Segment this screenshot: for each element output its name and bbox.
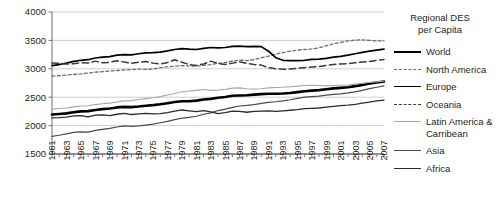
x-tick-label-1985: 1985	[221, 140, 231, 160]
legend-swatch-europe	[394, 81, 421, 92]
series-line-asia	[52, 86, 384, 137]
legend-label-asia: Asia	[426, 145, 444, 157]
legend-item-europe[interactable]: Europe	[394, 81, 503, 93]
series-line-world	[52, 82, 384, 115]
x-tick-label-1995: 1995	[293, 140, 303, 160]
x-tick-label-1969: 1969	[105, 140, 115, 160]
x-tick-label-1977: 1977	[163, 140, 173, 160]
legend-label-oceania: Oceania	[426, 99, 461, 111]
x-tick-label-1997: 1997	[307, 140, 317, 160]
legend-label-world: World	[426, 46, 451, 58]
x-tick-label-1983: 1983	[206, 140, 216, 160]
x-tick-label-1989: 1989	[249, 140, 259, 160]
legend-item-world[interactable]: World	[394, 46, 503, 58]
legend-item-asia[interactable]: Asia	[394, 145, 503, 157]
legend-label-africa: Africa	[426, 163, 450, 175]
x-tick-label-1987: 1987	[235, 140, 245, 160]
x-tick-label-1971: 1971	[120, 140, 130, 160]
legend-item-africa[interactable]: Africa	[394, 163, 503, 175]
legend-swatch-world	[394, 46, 421, 57]
legend-swatch-oceania	[394, 99, 421, 110]
line-chart-svg: 1500200025003000350040001961196319651967…	[0, 0, 390, 218]
y-tick-label-1500: 1500	[25, 148, 46, 159]
legend-swatch-north_america	[394, 64, 421, 75]
x-tick-label-1991: 1991	[264, 140, 274, 160]
y-tick-label-4000: 4000	[25, 6, 46, 17]
legend-label-north_america: North America	[426, 64, 486, 76]
chart-legend: Regional DES per Capita WorldNorth Ameri…	[394, 8, 503, 208]
series-line-latin-america-carribean	[52, 81, 384, 109]
legend-label-latin_america: Latin America &Carribean	[426, 116, 493, 139]
x-tick-label-2003: 2003	[351, 140, 361, 160]
legend-swatch-asia	[394, 145, 421, 156]
x-tick-label-1999: 1999	[322, 140, 332, 160]
x-tick-label-2001: 2001	[336, 140, 346, 160]
x-tick-label-1981: 1981	[192, 140, 202, 160]
x-tick-label-1961: 1961	[47, 140, 57, 160]
y-tick-label-2500: 2500	[25, 92, 46, 103]
legend-swatch-africa	[394, 163, 421, 174]
x-tick-label-1963: 1963	[62, 140, 72, 160]
series-line-oceania	[52, 59, 384, 69]
chart-screenshot: 1500200025003000350040001961196319651967…	[0, 0, 503, 218]
y-tick-label-3000: 3000	[25, 63, 46, 74]
chart-plot-area: 1500200025003000350040001961196319651967…	[0, 0, 390, 218]
y-tick-label-2000: 2000	[25, 120, 46, 131]
legend-title: Regional DES per Capita	[398, 12, 482, 35]
legend-item-oceania[interactable]: Oceania	[394, 99, 503, 111]
x-tick-label-1975: 1975	[148, 140, 158, 160]
x-tick-label-1993: 1993	[278, 140, 288, 160]
x-tick-label-1965: 1965	[76, 140, 86, 160]
x-tick-label-1979: 1979	[177, 140, 187, 160]
legend-item-north_america[interactable]: North America	[394, 64, 503, 76]
x-tick-label-1967: 1967	[91, 140, 101, 160]
legend-title-line2: per Capita	[398, 24, 482, 36]
legend-swatch-latin_america	[394, 116, 421, 127]
x-tick-label-2005: 2005	[365, 140, 375, 160]
x-tick-label-2007: 2007	[379, 140, 389, 160]
legend-title-line1: Regional DES	[398, 12, 482, 24]
x-tick-label-1973: 1973	[134, 140, 144, 160]
legend-item-latin_america[interactable]: Latin America &Carribean	[394, 116, 503, 139]
legend-items: WorldNorth AmericaEuropeOceaniaLatin Ame…	[394, 46, 503, 175]
legend-label-europe: Europe	[426, 81, 457, 93]
y-tick-label-3500: 3500	[25, 35, 46, 46]
